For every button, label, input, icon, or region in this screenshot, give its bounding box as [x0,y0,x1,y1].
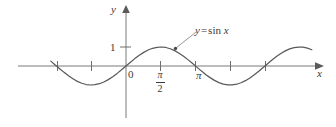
plot-canvas [0,0,336,127]
x-tick-label-pi-half: π 2 [152,70,168,94]
y-tick-label-one: 1 [110,42,116,53]
origin-label: 0 [128,69,134,80]
equation-function: sin [208,24,221,36]
curve-equation-label: y=sin x [195,25,229,36]
y-axis-label: y [111,4,116,15]
equation-argument: x [224,24,229,36]
equation-operator: = [200,24,208,36]
pi-half-numerator: π [152,70,168,81]
sine-graph-figure: y x 0 1 π 2 π y=sin x [0,0,336,127]
y-axis-arrowhead [122,5,130,13]
annotation-anchor-dot [174,47,177,50]
x-tick-label-pi: π [196,70,202,81]
annotation-leader-line [176,32,196,48]
pi-half-denominator: 2 [152,84,168,95]
x-axis-label: x [317,68,322,79]
